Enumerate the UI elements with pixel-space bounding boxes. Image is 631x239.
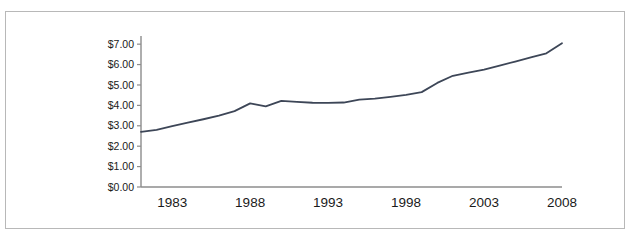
x-axis-tick-label: 1988	[235, 195, 265, 210]
line-chart: $0.00$1.00$2.00$3.00$4.00$5.00$6.00$7.00…	[6, 12, 624, 228]
y-axis-tick-label: $2.00	[108, 140, 134, 152]
y-axis-tick-label: $3.00	[108, 119, 134, 131]
y-axis-tick-label: $0.00	[108, 181, 134, 193]
figure-root: $0.00$1.00$2.00$3.00$4.00$5.00$6.00$7.00…	[0, 0, 631, 239]
y-axis-tick-labels: $0.00$1.00$2.00$3.00$4.00$5.00$6.00$7.00	[108, 38, 134, 193]
chart-frame: $0.00$1.00$2.00$3.00$4.00$5.00$6.00$7.00…	[5, 11, 625, 229]
data-series-line	[141, 43, 562, 132]
x-axis-tick-label: 1998	[391, 195, 421, 210]
x-axis-tick-label: 1983	[157, 195, 187, 210]
x-axis-tick-label: 2008	[547, 195, 577, 210]
x-axis-tick-labels: 198319881993199820032008	[157, 195, 577, 210]
y-axis-tick-label: $4.00	[108, 99, 134, 111]
x-axis-tick-label: 2003	[469, 195, 499, 210]
y-axis-tick-label: $7.00	[108, 38, 134, 50]
y-axis-tick-label: $5.00	[108, 79, 134, 91]
y-axis-tick-label: $6.00	[108, 58, 134, 70]
y-axis-tick-label: $1.00	[108, 160, 134, 172]
x-axis-tick-label: 1993	[313, 195, 343, 210]
